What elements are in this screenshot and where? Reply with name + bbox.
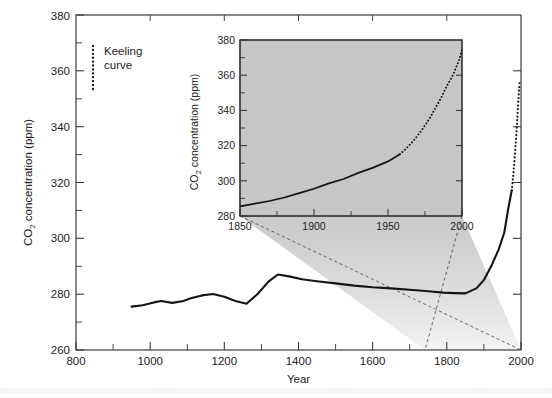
figure-root: 800 1000 1200 1400 1600 1800 2000 260 28… (0, 0, 552, 398)
inset-ytick-0: 280 (217, 210, 235, 222)
scan-artifact-band (0, 388, 552, 394)
main-y-major-ticks (76, 15, 84, 350)
legend: Keeling curve (93, 45, 142, 91)
magnification-wedge (240, 216, 521, 350)
main-xtick-1: 1000 (137, 355, 163, 367)
inset-y-axis-title-suffix: concentration (ppm) (188, 74, 200, 170)
main-y-right-ticks (513, 71, 521, 294)
main-x-tick-labels: 800 1000 1200 1400 1600 1800 2000 (66, 355, 533, 367)
inset-ytick-2: 320 (217, 139, 235, 151)
legend-keeling-label-line1: Keeling (104, 45, 142, 57)
main-x-axis-title: Year (287, 373, 310, 385)
inset-ytick-3: 340 (217, 104, 235, 116)
main-ytick-1: 280 (51, 288, 70, 300)
main-ytick-2: 300 (51, 232, 70, 244)
main-y-axis-title: CO2 concentration (ppm) (22, 119, 37, 246)
inset-ytick-1: 300 (217, 175, 235, 187)
inset-plot-frame (240, 40, 462, 216)
co2-figure: 800 1000 1200 1400 1600 1800 2000 260 28… (0, 0, 552, 398)
main-xtick-3: 1400 (286, 355, 312, 367)
inset-axes (240, 40, 462, 216)
main-ytick-0: 260 (51, 344, 70, 356)
svg-text:CO2 concentration (ppm): CO2 concentration (ppm) (188, 74, 203, 191)
inset-y-tick-labels: 280 300 320 340 360 380 (217, 34, 235, 222)
main-ytick-4: 340 (51, 121, 70, 133)
main-x-top-ticks (150, 15, 447, 21)
main-xtick-2: 1200 (212, 355, 238, 367)
main-xtick-0: 800 (66, 355, 85, 367)
main-ytick-6: 380 (51, 10, 70, 22)
main-ytick-5: 360 (51, 65, 70, 77)
inset-xtick-1: 1900 (302, 220, 326, 232)
main-y-axis-title-suffix: concentration (ppm) (22, 119, 34, 225)
main-ytick-3: 320 (51, 177, 70, 189)
inset-ytick-4: 360 (217, 69, 235, 81)
main-xtick-4: 1600 (360, 355, 386, 367)
inset-y-axis-title: CO2 concentration (ppm) (188, 74, 203, 191)
main-y-axis-title-prefix: CO (22, 229, 34, 246)
main-xtick-6: 2000 (508, 355, 534, 367)
main-xtick-5: 1800 (434, 355, 460, 367)
inset-ytick-5: 380 (217, 34, 235, 46)
svg-text:CO2 concentration (ppm): CO2 concentration (ppm) (22, 119, 37, 246)
inset-xtick-3: 2000 (450, 220, 474, 232)
series-keeling-main (512, 80, 520, 191)
inset-y-axis-title-prefix: CO (188, 175, 200, 191)
legend-keeling-label-line2: curve (104, 59, 132, 71)
main-y-tick-labels: 260 280 300 320 340 360 380 (51, 10, 70, 357)
inset-xtick-2: 1950 (376, 220, 400, 232)
